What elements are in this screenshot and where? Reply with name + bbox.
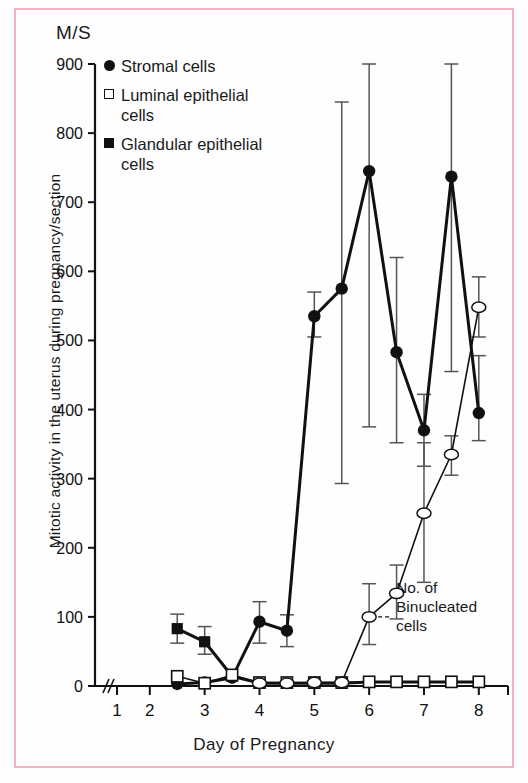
data-point-open-square [199,678,210,689]
plot-canvas: 010020030040050060070080090012345678 [0,0,528,783]
data-point-open-square [172,671,183,682]
x-axis-tick-label: 8 [474,701,483,720]
x-axis-tick-label: 1 [112,701,121,720]
y-axis-tick-label: 800 [56,125,83,142]
x-axis-tick-label: 3 [200,701,209,720]
data-point-open-square [446,676,457,687]
y-axis-tick-label: 100 [56,609,83,626]
y-axis-tick-label: 200 [56,540,83,557]
data-point-filled-square [199,636,210,647]
y-axis-tick-label: 600 [56,263,83,280]
data-point-open-square [473,676,484,687]
data-point-open-circle [335,677,349,687]
data-point-filled-square [172,623,183,634]
data-point-open-circle [390,588,404,598]
data-point-open-circle [417,508,431,518]
data-point-filled-circle [363,165,375,177]
data-point-filled-circle [253,616,265,628]
y-axis-tick-label: 700 [56,194,83,211]
series-line [177,629,479,684]
data-point-open-square [418,676,429,687]
x-axis-tick-label: 2 [145,701,154,720]
y-axis-tick-label: 300 [56,471,83,488]
data-point-open-square [391,676,402,687]
data-point-open-circle [472,302,486,312]
data-point-open-circle [280,678,294,688]
x-axis-tick-label: 5 [310,701,319,720]
data-point-filled-circle [473,407,485,419]
series-line [177,171,479,684]
data-point-filled-circle [281,625,293,637]
figure-container: M/S Mitotic activity in the uterus durin… [0,0,528,783]
x-axis-tick-label: 7 [419,701,428,720]
data-point-open-circle [444,449,458,459]
y-axis-tick-label: 900 [56,56,83,73]
data-point-open-circle [252,678,266,688]
data-point-filled-circle [445,170,457,182]
data-point-open-square [226,669,237,680]
data-point-open-square [364,676,375,687]
data-point-filled-circle [390,346,402,358]
data-point-filled-circle [418,424,430,436]
x-axis-tick-label: 6 [364,701,373,720]
y-axis-tick-label: 500 [56,332,83,349]
y-axis-tick-label: 400 [56,402,83,419]
data-point-filled-circle [308,310,320,322]
x-axis-tick-label: 4 [255,701,264,720]
y-axis-tick-label: 0 [74,678,83,695]
data-point-open-circle [362,612,376,622]
data-point-open-circle [307,677,321,687]
data-point-filled-circle [336,282,348,294]
